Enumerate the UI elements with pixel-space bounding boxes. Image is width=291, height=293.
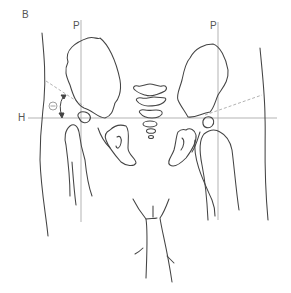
dashed-angle-line-right: [205, 95, 262, 115]
body-outline-right: [260, 48, 268, 220]
coccyx-3: [149, 135, 154, 138]
vertebra-3: [139, 110, 162, 118]
anatomy-drawing: [0, 0, 291, 293]
right-obturator: [181, 138, 184, 150]
body-outline-left: [40, 33, 48, 236]
lower-body-left-branch: [135, 248, 143, 254]
vertebra-2: [136, 97, 165, 106]
left-femur: [65, 125, 92, 196]
perineum-top: [146, 218, 157, 219]
left-thigh-line: [72, 162, 76, 205]
right-femur: [200, 130, 239, 220]
right-thigh-inner: [195, 140, 215, 216]
coccyx-1: [143, 121, 157, 127]
left-obturator: [116, 136, 121, 148]
right-ilium: [177, 44, 228, 117]
coccyx-2: [147, 129, 156, 134]
lower-body-right: [160, 199, 172, 282]
left-ilium: [66, 37, 121, 118]
lower-body-left: [133, 199, 147, 278]
left-femoral-head: [78, 112, 90, 123]
vertebra-1: [134, 84, 167, 96]
angle-symbol-icon: [49, 102, 57, 110]
